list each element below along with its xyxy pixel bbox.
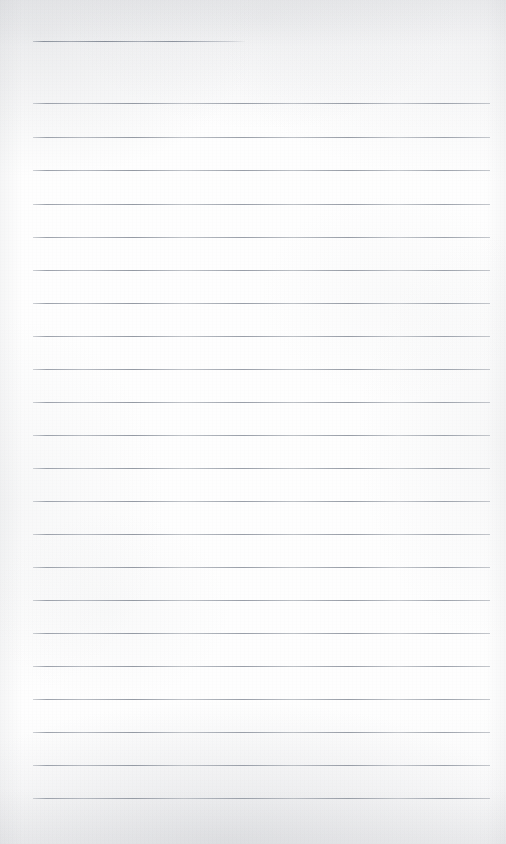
rule-line (33, 170, 490, 171)
lined-paper-page (0, 0, 506, 844)
rule-line (33, 270, 490, 271)
rule-line (33, 732, 490, 733)
rule-line (33, 567, 490, 568)
rule-line (33, 41, 245, 42)
rule-line (33, 534, 490, 535)
rule-line (33, 204, 490, 205)
rule-line (33, 501, 490, 502)
rule-line (33, 237, 490, 238)
rule-line (33, 435, 490, 436)
rule-line (33, 765, 490, 766)
rule-line (33, 600, 490, 601)
rule-line (33, 798, 490, 799)
rule-line (33, 137, 490, 138)
rule-line (33, 336, 490, 337)
rule-line (33, 468, 490, 469)
rule-line (33, 369, 490, 370)
rule-line (33, 402, 490, 403)
rule-line (33, 633, 490, 634)
rule-line (33, 666, 490, 667)
rule-line (33, 103, 490, 104)
rule-line-group (0, 0, 506, 844)
rule-line (33, 303, 490, 304)
rule-line (33, 699, 490, 700)
